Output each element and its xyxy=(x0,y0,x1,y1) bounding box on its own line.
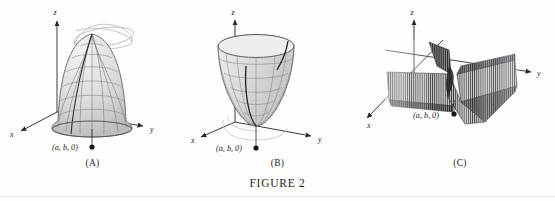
panel-a-z-axis: z xyxy=(53,8,58,112)
panel-b-surface-bowl xyxy=(218,35,294,127)
panel-c-label: (C) xyxy=(365,158,555,168)
panel-c-z-axis-label: z xyxy=(410,8,415,17)
panel-a-x-axis-label: x xyxy=(9,130,14,139)
figure-panel-a: z x y xyxy=(0,0,185,201)
figure-2: z x y xyxy=(0,0,555,201)
panel-c-x-axis-label: x xyxy=(366,121,371,130)
panel-a-point-label: (a, b, 0) xyxy=(52,143,78,152)
figure-panel-c: z x y xyxy=(365,0,555,201)
panel-a-surface-dome xyxy=(52,34,132,137)
panel-b-x-axis: x xyxy=(190,122,235,145)
panel-a-x-axis: x xyxy=(9,112,57,139)
panel-b-z-axis-label: z xyxy=(231,8,236,17)
panel-a-graphic: z x y xyxy=(0,0,185,201)
panel-b-x-axis-label: x xyxy=(190,136,195,145)
panel-a-y-axis-label: y xyxy=(149,125,154,134)
panel-b-point-marker xyxy=(253,126,258,151)
panel-b-y-axis-label: y xyxy=(317,135,322,144)
panel-b-point-label: (a, b, 0) xyxy=(216,144,242,153)
panel-b-graphic: z x y xyxy=(185,0,370,201)
panel-c-point-label: (a, b, 0) xyxy=(413,111,439,120)
figure-caption: FIGURE 2 xyxy=(0,177,555,189)
bottom-divider xyxy=(0,196,555,197)
panel-c-y-axis-label: y xyxy=(536,69,541,78)
panel-b-y-axis: y xyxy=(235,122,322,144)
panel-a-z-axis-label: z xyxy=(53,8,58,17)
panel-c-graphic: z x y xyxy=(365,0,555,201)
panel-b-label: (B) xyxy=(185,158,370,168)
panel-a-label: (A) xyxy=(0,158,185,168)
figure-panel-b: z x y xyxy=(185,0,370,201)
panel-b-rim-ellipse xyxy=(218,35,294,58)
